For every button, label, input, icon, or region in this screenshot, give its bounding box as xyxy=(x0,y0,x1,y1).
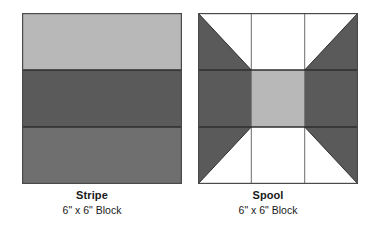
spool-top-center-square xyxy=(251,13,304,70)
block-figure-stripe: Stripe 6" x 6" Block xyxy=(0,0,184,232)
stripe-top-band xyxy=(22,13,182,70)
stripe-middle-band xyxy=(22,70,182,127)
stripe-bottom-band xyxy=(22,127,182,184)
block-figure-spool: Spool 6" x 6" Block xyxy=(176,0,360,232)
quilt-block-diagram-canvas: Stripe 6" x 6" Block xyxy=(0,0,367,232)
spool-center-square xyxy=(251,70,304,127)
spool-block-svg xyxy=(198,13,358,184)
stripe-block-svg xyxy=(22,13,182,184)
spool-middle-left-square xyxy=(198,70,251,127)
stripe-caption: Stripe 6" x 6" Block xyxy=(0,189,184,217)
spool-caption: Spool 6" x 6" Block xyxy=(176,189,360,217)
spool-block-size: 6" x 6" Block xyxy=(176,204,360,217)
spool-block-name: Spool xyxy=(176,189,360,202)
stripe-block-name: Stripe xyxy=(0,189,184,202)
spool-bottom-center-square xyxy=(251,127,304,184)
stripe-block-size: 6" x 6" Block xyxy=(0,204,184,217)
stripe-block-illustration xyxy=(22,13,182,184)
spool-block-illustration xyxy=(198,13,358,184)
spool-middle-right-square xyxy=(305,70,358,127)
